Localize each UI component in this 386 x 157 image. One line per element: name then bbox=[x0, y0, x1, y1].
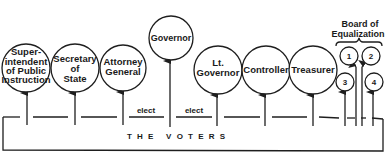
office-governor: Governor bbox=[149, 16, 193, 60]
voters-label: T H E V O T E R S bbox=[127, 132, 227, 141]
label-line: Governor bbox=[151, 33, 192, 43]
arrow-board-2 bbox=[362, 64, 364, 67]
office-lt-governor: Lt. Governor bbox=[194, 46, 242, 94]
office-secretary-of-state: Secretary of State bbox=[51, 44, 99, 92]
label-line: Treasurer bbox=[291, 64, 335, 75]
label-line: Instruction bbox=[1, 74, 50, 85]
elect-label: elect bbox=[185, 106, 204, 115]
board-of-equalization: Board of Equalization 1 2 3 4 bbox=[331, 19, 384, 91]
label-line: Governor bbox=[197, 67, 240, 78]
label-line: Controller bbox=[243, 64, 289, 75]
board-member-2: 2 bbox=[369, 52, 374, 61]
office-attorney-general: Attorney General bbox=[100, 45, 146, 91]
brace-icon bbox=[336, 38, 382, 46]
label-line: State bbox=[63, 73, 86, 84]
board-member-3: 3 bbox=[343, 78, 348, 87]
office-superintendent: Super- intendent of Public Instruction bbox=[1, 44, 50, 92]
label-line: General bbox=[105, 66, 140, 77]
board-title: Board of bbox=[342, 19, 380, 29]
board-title: Equalization bbox=[331, 29, 384, 39]
arrow-board-1 bbox=[354, 64, 356, 67]
elect-label: elect bbox=[137, 106, 156, 115]
voters-elect-officials-diagram: Super- intendent of Public Instruction S… bbox=[0, 0, 386, 157]
board-member-4: 4 bbox=[372, 78, 377, 87]
board-member-1: 1 bbox=[347, 52, 352, 61]
office-controller: Controller bbox=[242, 46, 290, 94]
office-treasurer: Treasurer bbox=[289, 46, 337, 94]
